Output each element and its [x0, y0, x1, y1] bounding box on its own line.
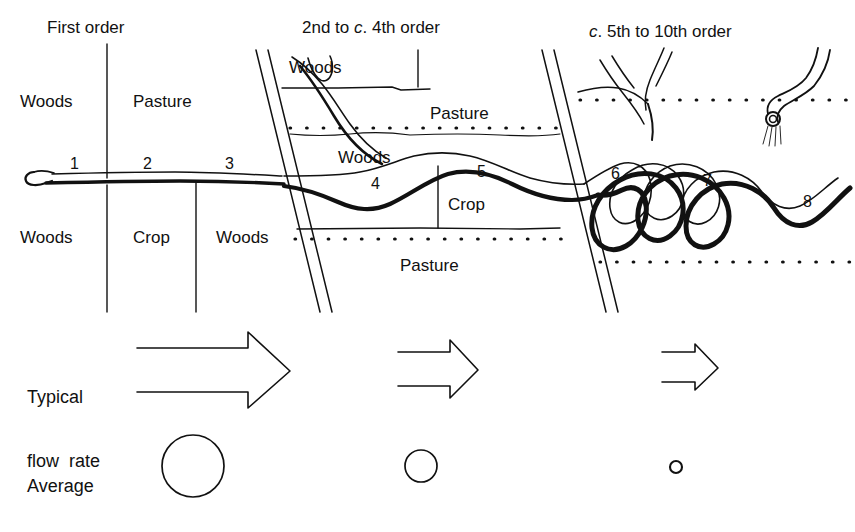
particle-circle-small [670, 461, 682, 473]
flow-arrow-small [662, 344, 718, 390]
stream-order-number-1: 1 [70, 155, 79, 174]
land-use-label-woods-5: Woods [338, 148, 391, 168]
stream-order-number-8: 8 [803, 193, 812, 212]
dotted-boundary-mid-upper-solid [290, 133, 560, 136]
field-boundary-mid-lower [297, 228, 560, 229]
land-use-label-woods-1: Woods [20, 92, 73, 112]
stream-order-diagram: First order 2nd to c. 4th order c. 5th t… [0, 0, 855, 532]
land-use-label-woods-4: Woods [289, 58, 342, 78]
land-use-label-pasture-2: Pasture [430, 104, 489, 124]
stream-segment-second-fourth-order [284, 56, 598, 209]
stream-order-number-3: 3 [225, 155, 234, 174]
stream-order-number-5: 5 [477, 163, 486, 182]
land-use-label-woods-2: Woods [20, 228, 73, 248]
stream-order-number-6: 6 [611, 165, 620, 184]
flow-arrow-large [137, 332, 290, 408]
field-boundary-mid-upper [282, 87, 430, 90]
road-1 [256, 50, 332, 312]
flow-arrow-medium [398, 340, 478, 398]
header-fifth-to-tenth-order: c. 5th to 10th order [589, 22, 732, 42]
particle-circle-large [162, 435, 224, 497]
land-use-label-crop-2: Crop [448, 195, 485, 215]
legend-particle-size-line-1: Average [27, 476, 122, 497]
header-5th-suffix: . 5th to 10th order [598, 22, 732, 41]
header-5th-circa: c [589, 22, 598, 41]
legend-flow-rate-line-1: Typical [27, 387, 100, 408]
land-use-label-woods-3: Woods [216, 228, 269, 248]
legend-particle-size-label: Average particle size on stream bottom [27, 434, 122, 532]
stream-order-number-4: 4 [371, 175, 380, 194]
land-use-label-crop-1: Crop [133, 228, 170, 248]
land-use-label-pasture-3: Pasture [400, 256, 459, 276]
header-2nd-suffix: . 4th order [363, 18, 441, 37]
header-2nd-circa: c [354, 18, 363, 37]
header-second-to-fourth-order: 2nd to c. 4th order [302, 18, 440, 38]
stream-order-number-2: 2 [143, 155, 152, 174]
stream-segment-first-order [25, 171, 284, 185]
header-2nd-prefix: 2nd to [302, 18, 354, 37]
stream-order-number-7: 7 [703, 172, 712, 191]
stream-segment-fifth-tenth-order [578, 48, 850, 250]
road-2 [542, 50, 618, 312]
particle-circle-medium [405, 450, 437, 482]
header-first-order: First order [47, 18, 124, 38]
land-use-label-pasture-1: Pasture [133, 92, 192, 112]
